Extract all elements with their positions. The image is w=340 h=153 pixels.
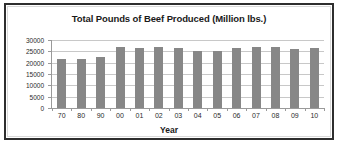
y-axis-tick-label: 30000 [26, 37, 44, 44]
x-axis-tick-label: 80 [77, 112, 85, 119]
bar [135, 48, 144, 108]
x-axis-tick [130, 108, 131, 111]
x-axis-tick [91, 108, 92, 111]
x-axis-tick [285, 108, 286, 111]
x-axis-tick [149, 108, 150, 111]
x-axis-tick [305, 108, 306, 111]
bar [290, 49, 299, 108]
x-axis-tick [246, 108, 247, 111]
x-axis-tick-label: 00 [116, 112, 124, 119]
chart-title: Total Pounds of Beef Produced (Million l… [8, 13, 330, 24]
y-axis-labels: 050001000015000200002500030000 [8, 40, 48, 108]
x-axis-tick-label: 04 [194, 112, 202, 119]
x-axis-tick-label: 10 [310, 112, 318, 119]
y-axis-tick-label: 20000 [26, 59, 44, 66]
x-axis-tick [266, 108, 267, 111]
bar [252, 47, 261, 108]
bar [271, 47, 280, 108]
x-axis-tick-label: 02 [155, 112, 163, 119]
bar [116, 47, 125, 108]
x-axis-tick [71, 108, 72, 111]
bar [57, 59, 66, 108]
bar-series [52, 40, 324, 108]
y-axis-tick-label: 10000 [26, 82, 44, 89]
x-axis-tick [324, 108, 325, 111]
x-axis-title: Year [8, 125, 330, 135]
chart-frame: Total Pounds of Beef Produced (Million l… [4, 3, 334, 140]
x-axis-tick-label: 06 [233, 112, 241, 119]
bar [310, 48, 319, 108]
bar [213, 51, 222, 108]
x-axis-tick-label: 03 [174, 112, 182, 119]
bar [154, 47, 163, 108]
x-axis-tick [169, 108, 170, 111]
x-axis-tick-label: 07 [252, 112, 260, 119]
x-axis-tick [188, 108, 189, 111]
bar [193, 51, 202, 108]
x-axis-tick [227, 108, 228, 111]
x-axis-tick [207, 108, 208, 111]
y-axis-tick-label: 25000 [26, 48, 44, 55]
bar [77, 59, 86, 108]
x-axis-tick [52, 108, 53, 111]
x-axis-tick [110, 108, 111, 111]
x-axis-tick-label: 09 [291, 112, 299, 119]
y-axis-tick-label: 15000 [26, 71, 44, 78]
x-axis-tick-label: 70 [58, 112, 66, 119]
y-axis-tick-label: 5000 [30, 93, 44, 100]
y-axis-tick-label: 0 [40, 105, 44, 112]
chart-plot-container: Total Pounds of Beef Produced (Million l… [7, 6, 331, 137]
x-axis-tick-label: 05 [213, 112, 221, 119]
plot-area [52, 40, 324, 108]
x-axis-tick-label: 08 [272, 112, 280, 119]
x-axis-tick-label: 90 [97, 112, 105, 119]
bar [232, 48, 241, 108]
bar [96, 57, 105, 108]
bar [174, 48, 183, 108]
x-axis-labels: 7080900001020304050607080910 [52, 112, 324, 124]
x-axis-tick-label: 01 [136, 112, 144, 119]
x-axis-ticks [52, 108, 324, 111]
